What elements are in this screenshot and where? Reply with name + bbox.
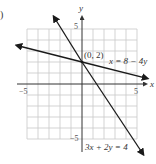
line-3x-plus-2y-equals-4-lower (82, 62, 143, 154)
intersection-label: (0, 2) (84, 51, 104, 60)
y-axis-label: y (79, 4, 83, 13)
equation-label-1: x = 8 − 4y (109, 57, 147, 66)
x-min-tick-label: −5 (19, 88, 28, 96)
x-max-tick-label: 5 (134, 88, 138, 96)
y-min-tick-label: −5 (70, 135, 79, 143)
y-max-tick-label: 5 (74, 23, 78, 31)
x-axis-label: x (150, 80, 154, 89)
equation-label-2: 3x + 2y = 4 (85, 143, 128, 152)
problem-label: ) (0, 10, 3, 20)
intersection-point (81, 61, 84, 64)
